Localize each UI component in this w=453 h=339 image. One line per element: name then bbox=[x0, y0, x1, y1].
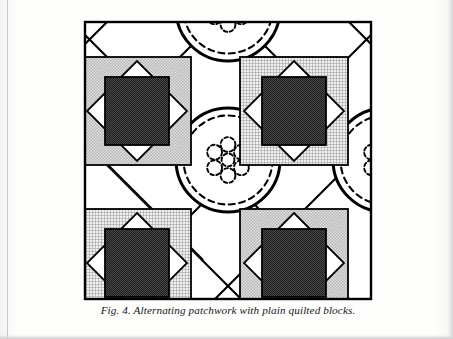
quilt-figure-illustration bbox=[83, 20, 373, 301]
quilt-diagram-svg bbox=[83, 20, 373, 301]
patchwork-block-bottom-left bbox=[83, 209, 191, 301]
patchwork-block-top-right bbox=[240, 57, 348, 165]
patchwork-block-top-left bbox=[83, 57, 191, 165]
figure-page: Fig. 4. Alternating patchwork with plain… bbox=[0, 0, 453, 339]
figure-caption: Fig. 4. Alternating patchwork with plain… bbox=[83, 303, 373, 317]
patchwork-block-bottom-right bbox=[240, 209, 348, 301]
scan-edge-line bbox=[7, 0, 8, 339]
page-edge-bottom bbox=[0, 335, 453, 339]
page-edge-right bbox=[448, 0, 453, 339]
